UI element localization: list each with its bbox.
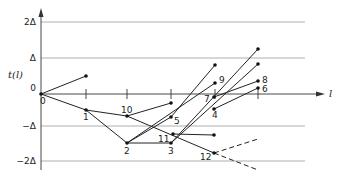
tree-diagram: 2Δ Δ 0 −Δ −2Δ t(l) l 0 1 2 3 4 5 6 7 8 9…: [0, 0, 339, 182]
y-tick-2delta: 2Δ: [24, 17, 37, 27]
y-tick-delta: Δ: [30, 53, 37, 63]
dashed-extensions: [214, 139, 258, 170]
y-tick-zero: 0: [30, 83, 36, 93]
y-tick-minus-2delta: −2Δ: [17, 156, 37, 166]
y-axis: [39, 8, 44, 170]
node-label-11: 11: [158, 134, 169, 144]
node-label-10: 10: [121, 105, 133, 115]
node-label-5: 5: [174, 116, 180, 126]
y-axis-arrow-icon: [39, 8, 44, 17]
x-axis: [41, 89, 325, 99]
node-label-8: 8: [262, 75, 268, 85]
x-axis-label: l: [329, 88, 332, 99]
y-axis-label: t(l): [8, 69, 23, 80]
node-label-9: 9: [219, 75, 225, 85]
node-label-0: 0: [40, 96, 46, 106]
node-label-3: 3: [168, 146, 174, 156]
node-label-2: 2: [124, 146, 130, 156]
node-label-12: 12: [200, 152, 211, 162]
tree-nodes: [39, 47, 260, 155]
tree-edges: [41, 49, 258, 153]
node-label-1: 1: [83, 112, 89, 122]
node-label-7: 7: [204, 94, 210, 104]
x-axis-arrow-icon: [316, 92, 325, 97]
node-label-6: 6: [262, 84, 268, 94]
node-label-4: 4: [212, 110, 218, 120]
y-tick-minus-delta: −Δ: [22, 121, 37, 131]
